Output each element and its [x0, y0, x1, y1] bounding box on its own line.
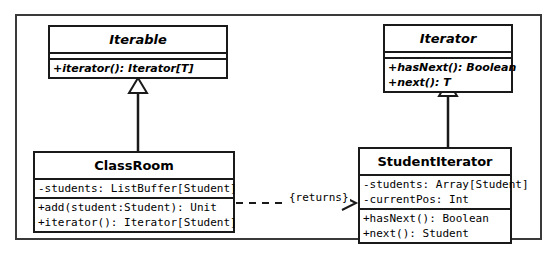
- attribute-item: -students: ListBuffer[Student]: [35, 181, 233, 196]
- class-name-iterable: Iterable: [50, 27, 226, 54]
- method-item: +iterator(): Iterator[T]: [50, 61, 226, 76]
- attributes-compartment-classroom: -students: ListBuffer[Student]: [35, 180, 233, 199]
- attribute-item: -currentPos: Int: [360, 192, 510, 207]
- method-item: +hasNext(): Boolean: [360, 211, 510, 226]
- methods-compartment-studentiterator: +hasNext(): Boolean +next(): Student: [360, 210, 510, 242]
- attributes-compartment-studentiterator: -students: Array[Student] -currentPos: I…: [360, 176, 510, 210]
- method-item: +hasNext(): Boolean: [385, 60, 511, 75]
- method-item: +add(student:Student): Unit: [35, 200, 233, 215]
- class-box-iterator[interactable]: Iterator +hasNext(): Boolean +next(): T: [383, 24, 513, 93]
- dependency-label-returns: {returns}: [288, 192, 350, 204]
- class-name-classroom: ClassRoom: [35, 153, 233, 180]
- methods-compartment-classroom: +add(student:Student): Unit +iterator():…: [35, 199, 233, 231]
- class-name-iterator: Iterator: [385, 26, 511, 53]
- method-item: +iterator(): Iterator[Student]: [35, 215, 233, 230]
- method-item: +next(): Student: [360, 226, 510, 241]
- class-box-classroom[interactable]: ClassRoom -students: ListBuffer[Student]…: [33, 151, 235, 233]
- methods-compartment-iterable: +iterator(): Iterator[T]: [50, 60, 226, 77]
- uml-class-diagram: {returns} Iterable +iterator(): Iterator…: [0, 0, 556, 254]
- class-name-studentiterator: StudentIterator: [360, 149, 510, 176]
- class-box-studentiterator[interactable]: StudentIterator -students: Array[Student…: [358, 147, 512, 244]
- method-item: +next(): T: [385, 75, 511, 90]
- attribute-item: -students: Array[Student]: [360, 177, 510, 192]
- methods-compartment-iterator: +hasNext(): Boolean +next(): T: [385, 59, 511, 91]
- class-box-iterable[interactable]: Iterable +iterator(): Iterator[T]: [48, 25, 228, 79]
